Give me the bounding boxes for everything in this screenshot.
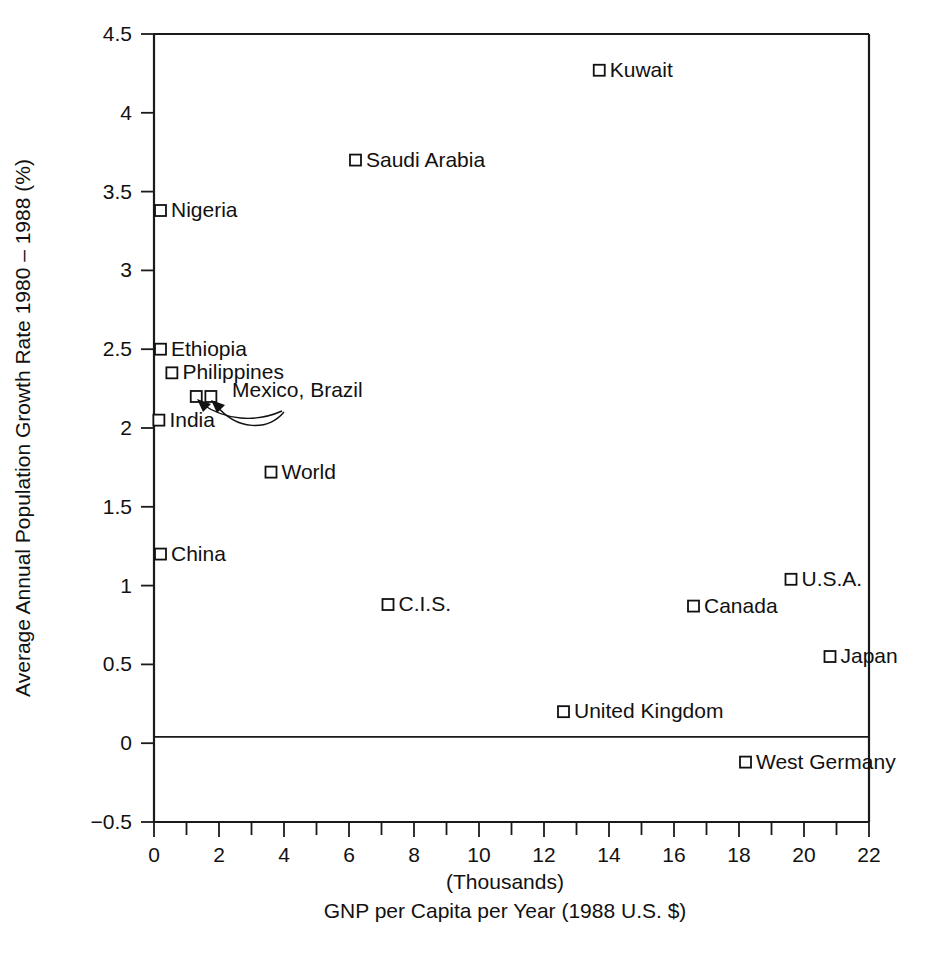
point-marker: [825, 651, 836, 662]
x-tick-label: 14: [597, 843, 621, 866]
point-label: Japan: [841, 644, 898, 667]
plot-frame: [154, 34, 869, 822]
data-point: United Kingdom: [558, 699, 723, 722]
data-point: India: [153, 408, 215, 431]
point-marker: [166, 367, 177, 378]
x-tick-label: 6: [343, 843, 355, 866]
point-marker: [155, 205, 166, 216]
point-label: Canada: [704, 594, 778, 617]
y-tick-label: 2: [120, 416, 132, 439]
point-label: Kuwait: [610, 58, 673, 81]
x-tick-label: 2: [213, 843, 225, 866]
point-label: West Germany: [756, 750, 896, 773]
data-point: Kuwait: [594, 58, 673, 81]
data-point: [205, 391, 216, 402]
x-tick-label: 12: [532, 843, 555, 866]
point-marker: [383, 599, 394, 610]
mexico-brazil-annotation: Mexico, Brazil: [197, 378, 363, 426]
x-tick-label: 8: [408, 843, 420, 866]
point-label: U.S.A.: [802, 567, 863, 590]
point-marker: [740, 757, 751, 768]
data-point: Japan: [825, 644, 898, 667]
point-marker: [786, 574, 797, 585]
annotation-label-mexico-brazil: Mexico, Brazil: [232, 378, 363, 401]
y-axis-title: Average Annual Population Growth Rate 19…: [11, 159, 34, 697]
point-marker: [155, 549, 166, 560]
x-axis-title: GNP per Capita per Year (1988 U.S. $): [324, 899, 687, 922]
y-tick-label: 3: [120, 258, 132, 281]
point-marker: [688, 601, 699, 612]
x-tick-label: 10: [467, 843, 490, 866]
y-axis-ticks: −0.500.511.522.533.544.5: [91, 22, 154, 833]
y-tick-label: 0: [120, 731, 132, 754]
data-point: Saudi Arabia: [350, 148, 485, 171]
point-label: Ethiopia: [171, 337, 247, 360]
y-tick-label: 4.5: [103, 22, 132, 45]
y-tick-label: −0.5: [91, 810, 132, 833]
point-marker: [266, 467, 277, 478]
scatter-plot: −0.500.511.522.533.544.5 024681012141618…: [0, 0, 934, 963]
y-tick-label: 4: [120, 101, 132, 124]
data-point: China: [155, 542, 226, 565]
x-tick-label: 0: [148, 843, 160, 866]
point-label: United Kingdom: [574, 699, 723, 722]
point-label: India: [169, 408, 215, 431]
point-marker: [205, 391, 216, 402]
point-marker: [155, 344, 166, 355]
data-point: Canada: [688, 594, 778, 617]
x-axis-ticks: 0246810121416182022: [148, 822, 881, 866]
chart-page: −0.500.511.522.533.544.5 024681012141618…: [0, 0, 934, 963]
point-marker: [153, 415, 164, 426]
point-label: World: [282, 460, 336, 483]
data-point: World: [266, 460, 336, 483]
y-tick-label: 0.5: [103, 652, 132, 675]
data-point: West Germany: [740, 750, 896, 773]
y-tick-label: 2.5: [103, 337, 132, 360]
y-tick-label: 1: [120, 574, 132, 597]
x-axis-units-label: (Thousands): [446, 870, 564, 893]
data-point: Ethiopia: [155, 337, 247, 360]
point-label: China: [171, 542, 226, 565]
x-tick-label: 22: [857, 843, 880, 866]
data-points: KuwaitSaudi ArabiaNigeriaEthiopiaPhilipp…: [153, 58, 897, 773]
x-tick-label: 16: [662, 843, 685, 866]
y-tick-label: 3.5: [103, 180, 132, 203]
x-tick-label: 18: [727, 843, 750, 866]
y-tick-label: 1.5: [103, 495, 132, 518]
x-tick-label: 4: [278, 843, 290, 866]
point-label: Saudi Arabia: [366, 148, 485, 171]
x-tick-label: 20: [792, 843, 815, 866]
point-marker: [558, 706, 569, 717]
point-label: C.I.S.: [399, 592, 452, 615]
point-marker: [594, 65, 605, 76]
data-point: U.S.A.: [786, 567, 863, 590]
point-marker: [350, 155, 361, 166]
data-point: C.I.S.: [383, 592, 452, 615]
point-label: Nigeria: [171, 198, 238, 221]
data-point: Nigeria: [155, 198, 238, 221]
annotation-curve-brazil: [216, 405, 284, 425]
